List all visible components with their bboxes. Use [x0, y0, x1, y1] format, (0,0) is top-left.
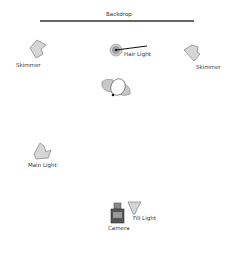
skimmer-right-label: Skimmer: [196, 64, 221, 70]
subject-icon[interactable]: [102, 76, 130, 97]
hair-light-label: Hair Light: [124, 51, 151, 57]
fill-light-label: Fill Light: [133, 215, 156, 221]
skimmer-left-icon[interactable]: [30, 40, 46, 58]
camera-icon[interactable]: [111, 203, 124, 223]
main-light-icon[interactable]: [34, 143, 51, 159]
skimmer-left-label: Skimmer: [16, 62, 41, 68]
backdrop-label: Backdrop: [106, 11, 132, 17]
lighting-diagram: [0, 0, 233, 258]
skimmer-right-icon[interactable]: [184, 45, 200, 61]
camera-label: Camera: [108, 225, 130, 231]
main-light-label: Main Light: [28, 162, 57, 168]
fill-light-icon[interactable]: [128, 202, 141, 214]
